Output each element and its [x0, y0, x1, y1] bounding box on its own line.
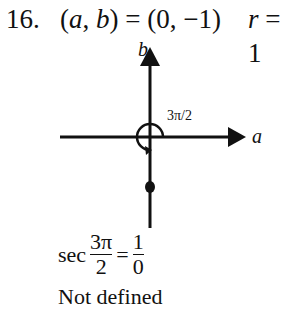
- equals-sign: =: [116, 242, 128, 268]
- x-axis-arrow-icon: [228, 127, 246, 147]
- point-marker: [145, 181, 155, 193]
- value-fraction: 1 0: [133, 230, 144, 279]
- sec-function: sec: [58, 242, 86, 268]
- y-axis-label: b: [138, 38, 148, 61]
- x-axis-label: a: [252, 125, 262, 148]
- secant-equation: sec 3π 2 = 1 0: [58, 230, 148, 279]
- angle-label: 3π/2: [167, 108, 192, 124]
- conclusion-text: Not defined: [58, 284, 162, 310]
- angle-fraction: 3π 2: [90, 230, 112, 279]
- coordinate-diagram: [0, 0, 298, 314]
